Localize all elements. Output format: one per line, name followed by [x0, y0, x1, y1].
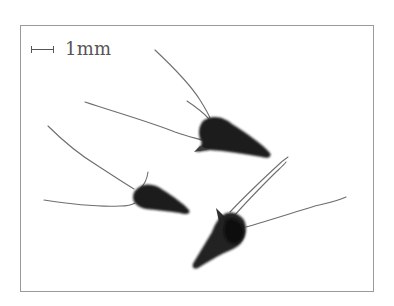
specimen-2 — [44, 126, 189, 214]
specimen-photo — [0, 0, 394, 306]
specimen-3 — [193, 157, 346, 269]
specimen-1 — [85, 50, 271, 158]
